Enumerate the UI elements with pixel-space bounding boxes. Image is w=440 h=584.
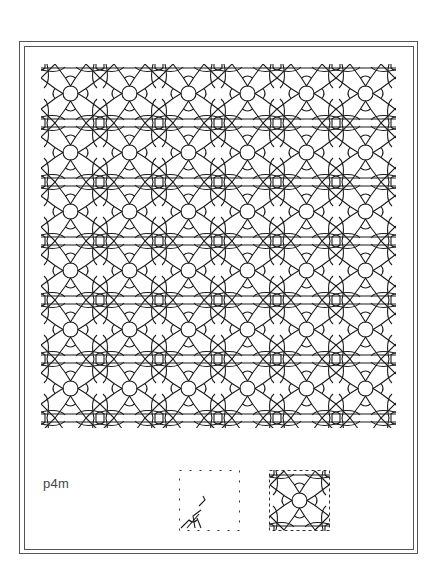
wallpaper-pattern bbox=[41, 64, 396, 428]
unit-cell-thumbnail bbox=[269, 470, 330, 531]
fundamental-region-thumbnail bbox=[179, 470, 240, 531]
symmetry-group-label: p4m bbox=[43, 476, 69, 491]
